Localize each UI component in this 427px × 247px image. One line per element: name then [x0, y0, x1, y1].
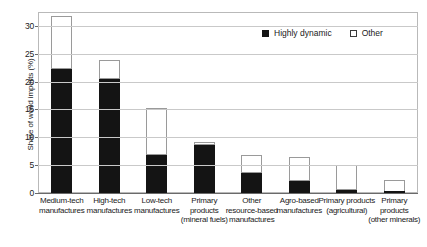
- top-caption: [8, 0, 420, 7]
- y-tick-mark-0: [35, 193, 38, 194]
- y-tick-label-10: 10: [8, 132, 34, 142]
- plot-area: [38, 12, 418, 193]
- bar-group[interactable]: [146, 108, 167, 193]
- y-tick-label-30: 30: [8, 21, 34, 31]
- bar-segment-other[interactable]: [51, 16, 72, 69]
- bar-group[interactable]: [336, 165, 357, 193]
- bar-group[interactable]: [51, 16, 72, 193]
- bar-segment-other[interactable]: [241, 155, 262, 173]
- gridline-30: [38, 26, 418, 27]
- y-tick-label-20: 20: [8, 77, 34, 87]
- y-tick-mark-20: [35, 82, 38, 83]
- gridline-15: [38, 109, 418, 110]
- bar-segment-highly-dynamic[interactable]: [99, 79, 120, 193]
- x-axis-label-7: Primaryproducts(other minerals): [365, 196, 425, 225]
- y-tick-mark-15: [35, 109, 38, 110]
- bar-group[interactable]: [99, 60, 120, 193]
- legend-label-other: Other: [362, 28, 383, 38]
- gridline-25: [38, 54, 418, 55]
- y-tick-mark-10: [35, 137, 38, 138]
- legend-item-highly-dynamic: Highly dynamic: [262, 28, 332, 38]
- gridline-0: [38, 193, 418, 194]
- legend-label-highly-dynamic: Highly dynamic: [274, 28, 332, 38]
- bar-segment-highly-dynamic[interactable]: [146, 155, 167, 193]
- y-tick-mark-25: [35, 54, 38, 55]
- hollow-square-icon: [350, 30, 357, 37]
- y-tick-label-5: 5: [8, 160, 34, 170]
- filled-square-icon: [262, 30, 269, 37]
- x-axis-label-line: products: [365, 206, 425, 216]
- stacked-bar-chart: Share of world imports (%) 051015202530 …: [0, 0, 427, 247]
- bar-segment-other[interactable]: [146, 108, 167, 155]
- chart-legend: Highly dynamic Other: [262, 28, 383, 38]
- bar-group[interactable]: [289, 157, 310, 193]
- x-axis-label-line: (other minerals): [365, 215, 425, 225]
- bar-segment-other[interactable]: [289, 157, 310, 180]
- bar-group[interactable]: [194, 142, 215, 193]
- y-tick-label-0: 0: [8, 188, 34, 198]
- bar-segment-other[interactable]: [336, 165, 357, 190]
- x-axis-label-line: manufactures: [222, 215, 282, 225]
- x-axis-label-line: Primary: [365, 196, 425, 206]
- y-tick-mark-5: [35, 165, 38, 166]
- gridline-5: [38, 165, 418, 166]
- gridline-10: [38, 137, 418, 138]
- bar-segment-highly-dynamic[interactable]: [194, 145, 215, 193]
- y-tick-mark-30: [35, 26, 38, 27]
- bar-segment-highly-dynamic[interactable]: [241, 173, 262, 193]
- bar-segment-highly-dynamic[interactable]: [51, 69, 72, 193]
- legend-item-other: Other: [350, 28, 383, 38]
- bar-group[interactable]: [384, 180, 405, 193]
- y-tick-label-15: 15: [8, 104, 34, 114]
- x-axis-labels: Medium-techmanufacturesHigh-techmanufact…: [38, 196, 418, 246]
- y-tick-label-25: 25: [8, 49, 34, 59]
- bar-segment-highly-dynamic[interactable]: [289, 181, 310, 193]
- bar-group[interactable]: [241, 155, 262, 193]
- gridline-20: [38, 82, 418, 83]
- bar-segment-other[interactable]: [99, 60, 120, 79]
